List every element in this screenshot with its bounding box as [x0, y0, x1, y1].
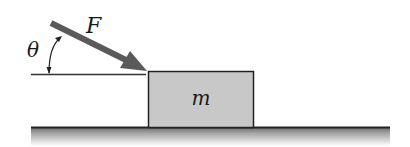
force-label: F — [85, 13, 102, 38]
ground-surface — [31, 127, 390, 146]
mass-label: m — [192, 86, 211, 110]
force-on-block-diagram: m F θ — [0, 0, 410, 147]
angle-arc — [47, 36, 63, 74]
angle-label: θ — [27, 38, 39, 62]
